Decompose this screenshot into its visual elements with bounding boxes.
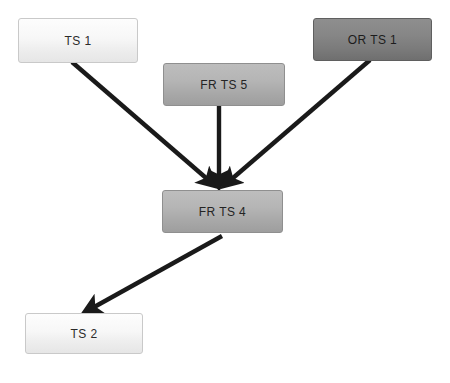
node-frts4[interactable]: FR TS 4 xyxy=(162,190,283,233)
node-frts4-label: FR TS 4 xyxy=(199,206,246,218)
diagram-canvas: TS 1 FR TS 5 OR TS 1 FR TS 4 TS 2 xyxy=(0,0,450,383)
edge-frts4-to-ts2 xyxy=(87,236,222,311)
node-ts1-label: TS 1 xyxy=(65,35,92,47)
node-orts1-label: OR TS 1 xyxy=(348,34,397,46)
node-frts5-label: FR TS 5 xyxy=(200,79,247,91)
node-ts2-label: TS 2 xyxy=(71,328,98,340)
node-ts1[interactable]: TS 1 xyxy=(18,18,138,63)
node-frts5[interactable]: FR TS 5 xyxy=(163,63,285,106)
node-orts1[interactable]: OR TS 1 xyxy=(313,18,432,61)
node-ts2[interactable]: TS 2 xyxy=(25,313,143,354)
